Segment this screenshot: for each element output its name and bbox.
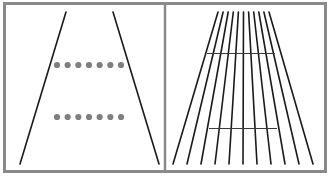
converging-line-1 xyxy=(20,12,66,164)
dots-panel xyxy=(20,12,159,164)
figure-canvas xyxy=(0,0,330,178)
lower-dot-2 xyxy=(65,114,71,120)
converging-line-2 xyxy=(113,12,159,164)
upper-dot-5 xyxy=(97,62,103,68)
upper-dot-7 xyxy=(118,62,124,68)
lower-dot-5 xyxy=(97,114,103,120)
lower-dot-3 xyxy=(75,114,81,120)
upper-dot-1 xyxy=(54,62,60,68)
rail-line-11 xyxy=(269,12,313,164)
lower-dot-4 xyxy=(86,114,92,120)
rail-line-1 xyxy=(173,12,218,164)
ponzo-illusion-figure xyxy=(0,0,330,178)
upper-dot-4 xyxy=(86,62,92,68)
lower-dot-6 xyxy=(107,114,113,120)
upper-dot-6 xyxy=(107,62,113,68)
lower-dot-7 xyxy=(118,114,124,120)
railway-panel xyxy=(173,12,313,164)
lower-dot-1 xyxy=(54,114,60,120)
upper-dot-2 xyxy=(65,62,71,68)
rail-line-6 xyxy=(243,12,244,164)
upper-dot-3 xyxy=(75,62,81,68)
